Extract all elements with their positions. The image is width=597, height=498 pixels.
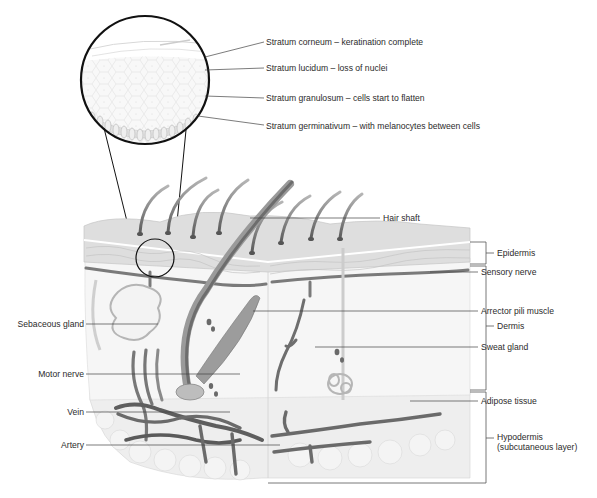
- label-motor-nerve: Motor nerve: [0, 369, 84, 379]
- label-sebaceous-gland: Sebaceous gland: [0, 319, 84, 329]
- label-arrector-pili: Arrector pili muscle: [481, 306, 554, 316]
- label-artery: Artery: [0, 440, 84, 450]
- label-hypodermis-subtitle: (subcutaneous layer): [497, 442, 577, 452]
- label-stratum-granulosum: Stratum granulosum – cells start to flat…: [266, 93, 425, 103]
- label-hair-shaft: Hair shaft: [383, 213, 420, 223]
- label-stratum-germinativum: Stratum germinativum – with melanocytes …: [266, 121, 480, 131]
- label-vein: Vein: [0, 407, 84, 417]
- label-stratum-corneum: Stratum corneum – keratination complete: [266, 37, 423, 47]
- label-hypodermis: Hypodermis: [497, 432, 543, 442]
- label-stratum-lucidum: Stratum lucidum – loss of nuclei: [266, 63, 387, 73]
- skin-block: [84, 178, 470, 480]
- magnified-epidermis-view: [80, 16, 212, 150]
- label-dermis: Dermis: [497, 321, 524, 331]
- label-adipose-tissue: Adipose tissue: [481, 396, 537, 406]
- label-sweat-gland: Sweat gland: [481, 342, 528, 352]
- label-epidermis: Epidermis: [497, 248, 535, 258]
- label-sensory-nerve: Sensory nerve: [481, 267, 536, 277]
